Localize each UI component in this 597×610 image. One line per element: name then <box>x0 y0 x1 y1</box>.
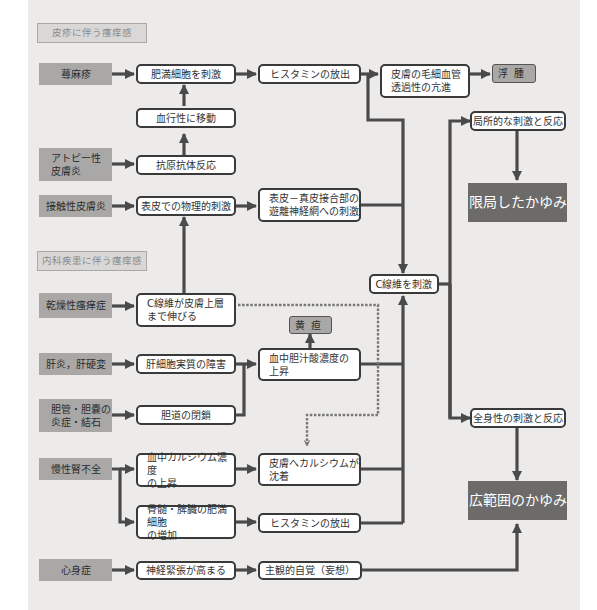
process-capillary-permeability: 皮膚の毛細血管 透過性の亢進 <box>380 64 470 98</box>
cause-urticaria: 蕁麻疹 <box>39 63 112 85</box>
cause-xerotic-pruritus: 乾燥性瘙痒症 <box>39 293 112 318</box>
process-blood-migration: 血行性に移動 <box>136 108 236 128</box>
section-label: 内科疾患に伴う瘙痒感 <box>42 255 142 267</box>
process-bile-acid-rise: 血中胆汁酸濃度の 上昇 <box>258 348 361 381</box>
process-mast-cell-stimulation: 肥満細胞を刺激 <box>136 64 236 84</box>
process-calcium-rise: 血中カルシウム濃度 の上昇 <box>136 453 236 487</box>
process-bile-duct-obstruction: 胆道の閉鎖 <box>136 405 236 425</box>
process-calcium-deposit: 皮膚へカルシウムが 沈着 <box>258 453 361 486</box>
outcome-localized-itch: 限局したかゆみ <box>468 183 567 222</box>
process-subjective-awareness: 主観的自覚（妄想） <box>258 561 362 580</box>
symptom-edema: 浮腫 <box>492 64 536 83</box>
cause-hepatitis-cirrhosis: 肝炎，肝硬変 <box>39 353 112 375</box>
process-physical-stimulation: 表皮での物理的刺激 <box>136 196 236 216</box>
process-c-fiber-stimulation: C線維を刺激 <box>369 274 439 294</box>
cause-contact-dermatitis: 接触性皮膚炎 <box>39 195 112 217</box>
process-nerve-tension: 神経緊張が高まる <box>136 561 236 580</box>
cause-biliary-disease: 胆管・胆嚢の 炎症・結石 <box>39 399 112 432</box>
cause-atopic-dermatitis: アトピー性 皮膚炎 <box>39 148 112 181</box>
cause-chronic-renal-failure: 慢性腎不全 <box>39 458 112 480</box>
section-header-internal: 内科疾患に伴う瘙痒感 <box>37 251 147 271</box>
section-header-skin: 皮疹に伴う瘙痒感 <box>37 23 147 43</box>
process-dej-nerve-stimulation: 表皮－真皮接合部の 遊離神経網への刺激 <box>258 188 361 222</box>
process-mast-cell-increase: 骨髄・脾臓の肥満細胞 の増加 <box>136 505 236 539</box>
process-histamine-release-bottom: ヒスタミンの放出 <box>258 513 361 533</box>
process-c-fiber-extension: C線維が皮膚上層 まで伸びる <box>136 293 236 327</box>
process-antigen-antibody: 抗原抗体反応 <box>136 155 236 175</box>
section-label: 皮疹に伴う瘙痒感 <box>52 27 132 39</box>
process-local-reaction: 局所的な刺激と反応 <box>470 111 566 131</box>
outcome-widespread-itch: 広範囲のかゆみ <box>468 481 567 520</box>
process-systemic-reaction: 全身性の刺激と反応 <box>470 408 566 428</box>
process-histamine-release-top: ヒスタミンの放出 <box>258 64 361 84</box>
cause-psychosomatic: 心身症 <box>39 559 112 581</box>
symptom-jaundice: 黄疸 <box>289 316 332 334</box>
process-hepatocyte-damage: 肝細胞実質の障害 <box>136 354 236 374</box>
